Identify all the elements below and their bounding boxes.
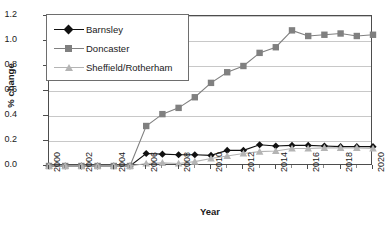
data-point-marker xyxy=(192,94,198,100)
legend-marker-diamond-icon xyxy=(64,24,74,34)
x-axis-tick-mark xyxy=(129,165,130,168)
legend-key xyxy=(54,62,84,74)
y-axis-tick-label: 1.0 xyxy=(0,35,17,44)
legend-label: Barnsley xyxy=(84,25,123,35)
y-axis-tick-label: 1.2 xyxy=(0,10,17,19)
y-axis-tick-label: 0.0 xyxy=(0,160,17,169)
data-point-marker xyxy=(208,80,214,86)
legend-key xyxy=(54,24,84,36)
data-point-marker xyxy=(143,123,149,129)
legend-marker-square-icon xyxy=(65,45,72,52)
x-axis-tick-mark xyxy=(145,165,146,169)
legend-item: Doncaster xyxy=(47,39,188,58)
data-point-marker xyxy=(354,33,360,39)
x-axis-tick-label: 2002 xyxy=(75,172,86,206)
y-axis-tick-label: 0.2 xyxy=(0,135,17,144)
x-axis-tick-label: 2014 xyxy=(270,172,281,206)
legend: BarnsleyDoncasterSheffield/Rotherham xyxy=(46,14,189,81)
x-axis-tick-mark xyxy=(80,165,81,169)
x-axis-tick-mark xyxy=(372,165,373,169)
data-point-marker xyxy=(305,33,311,39)
x-axis-tick-mark xyxy=(48,165,49,169)
x-axis-tick-label: 2006 xyxy=(140,172,151,206)
y-axis-tick-label: 0.6 xyxy=(0,85,17,94)
data-point-marker xyxy=(337,30,343,36)
data-point-marker xyxy=(273,44,279,50)
x-axis-tick-mark xyxy=(356,165,357,168)
x-axis-tick-mark xyxy=(64,165,65,168)
data-point-marker xyxy=(321,32,327,38)
data-point-marker xyxy=(256,141,263,148)
x-axis-tick-mark xyxy=(97,165,98,168)
x-axis-tick-label: 2012 xyxy=(237,172,248,206)
line-chart: % change 0.00.20.40.60.81.01.2 200020022… xyxy=(0,0,391,225)
x-axis-title: Year xyxy=(48,206,372,217)
x-axis-tick-mark xyxy=(307,165,308,169)
x-axis-tick-mark xyxy=(259,165,260,168)
x-axis-tick-mark xyxy=(113,165,114,169)
data-point-marker xyxy=(159,111,165,117)
x-axis-tick-mark xyxy=(226,165,227,168)
data-point-marker xyxy=(175,105,181,111)
x-axis-tick-mark xyxy=(210,165,211,169)
data-point-marker xyxy=(256,50,262,56)
data-point-marker xyxy=(240,63,246,69)
y-axis-tick-label: 0.8 xyxy=(0,60,17,69)
x-axis-tick-mark xyxy=(340,165,341,169)
y-axis-tick-label: 0.4 xyxy=(0,110,17,119)
x-axis-tick-label: 2020 xyxy=(367,172,378,206)
data-point-marker xyxy=(224,69,230,75)
x-axis-tick-mark xyxy=(161,165,162,168)
x-axis-tick-mark xyxy=(178,165,179,169)
data-point-marker xyxy=(289,27,295,33)
x-axis-tick-mark xyxy=(242,165,243,169)
x-axis-tick-mark xyxy=(291,165,292,168)
x-axis-tick-label: 2000 xyxy=(43,172,54,206)
legend-item: Barnsley xyxy=(47,20,188,39)
legend-label: Doncaster xyxy=(84,44,129,54)
x-axis-tick-label: 2004 xyxy=(108,172,119,206)
x-axis-tick-label: 2018 xyxy=(335,172,346,206)
x-axis-tick-label: 2016 xyxy=(302,172,313,206)
legend-label: Sheffield/Rotherham xyxy=(84,63,172,73)
legend-item: Sheffield/Rotherham xyxy=(47,58,188,77)
x-axis-tick-label: 2010 xyxy=(205,172,216,206)
legend-marker-triangle-icon xyxy=(65,64,73,71)
x-axis-tick-mark xyxy=(275,165,276,169)
x-axis-tick-mark xyxy=(323,165,324,168)
x-axis-tick-label: 2008 xyxy=(173,172,184,206)
x-axis-tick-mark xyxy=(194,165,195,168)
data-point-marker xyxy=(370,32,376,38)
legend-key xyxy=(54,43,84,55)
